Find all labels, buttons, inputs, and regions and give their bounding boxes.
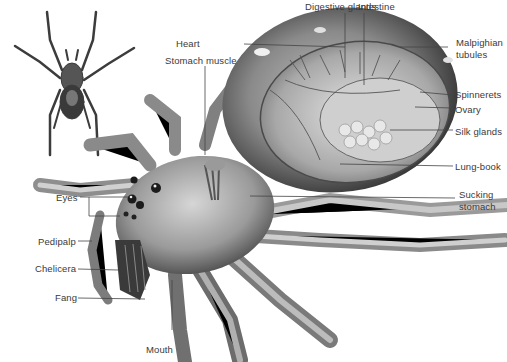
label-spinnerets: Spinnerets	[455, 89, 501, 100]
label-fang: Fang	[55, 292, 77, 303]
top-view-spider	[15, 12, 134, 155]
label-heart: Heart	[176, 38, 200, 49]
label-eyes: Eyes	[56, 192, 78, 203]
label-chelicera: Chelicera	[35, 263, 76, 274]
label-sucking-stomach-line1: Sucking	[459, 189, 494, 200]
label-intestine: Intestine	[358, 1, 395, 12]
label-silk-glands: Silk glands	[455, 126, 502, 137]
label-lung-book: Lung-book	[455, 161, 501, 172]
spider-illustration	[0, 0, 507, 362]
label-sucking-stomach-line2: stomach	[459, 201, 496, 212]
label-mouth: Mouth	[146, 344, 173, 355]
label-ovary: Ovary	[455, 104, 481, 115]
label-malpighian-tubules-line1: Malpighian	[456, 37, 503, 48]
spider-anatomy-diagram: Digestive glands Intestine Heart Stomach…	[0, 0, 507, 362]
label-malpighian-tubules-line2: tubules	[456, 49, 487, 60]
label-stomach-muscle: Stomach muscle	[165, 55, 237, 66]
label-pedipalp: Pedipalp	[38, 236, 76, 247]
